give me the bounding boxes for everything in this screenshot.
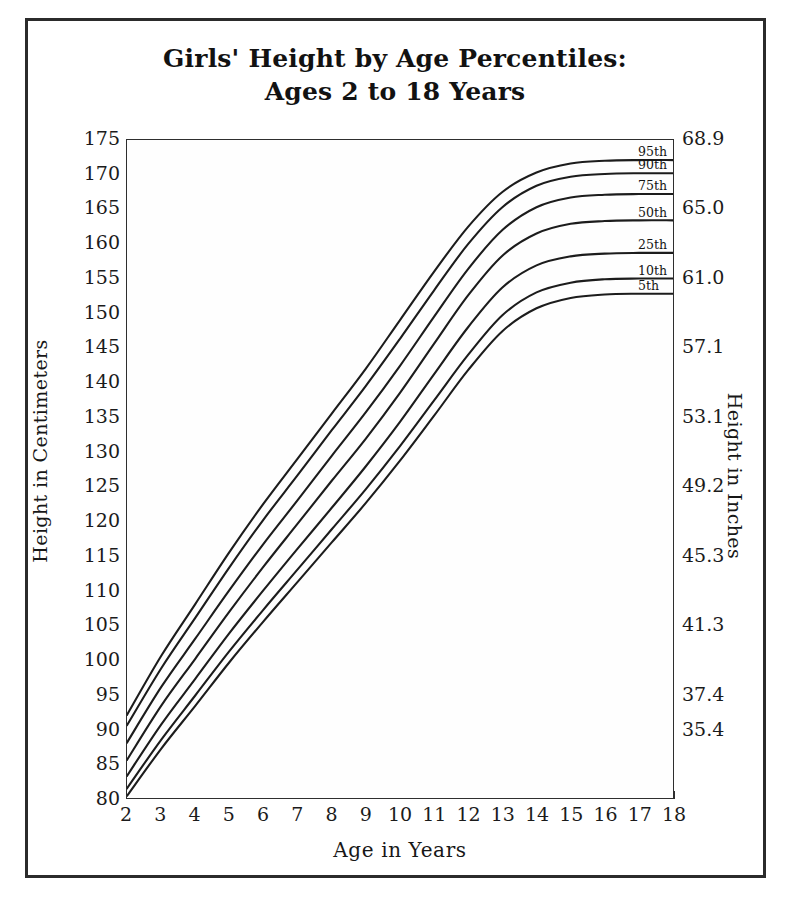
x-tick-label-age-6: 6 xyxy=(257,805,269,824)
y-tick-label-cm-135: 135 xyxy=(84,407,120,426)
y-tick-label-cm-115: 115 xyxy=(84,546,120,565)
x-tick-label-age-15: 15 xyxy=(559,805,583,824)
y-axis-title-left: Height in Centimeters xyxy=(29,321,51,581)
y-tick-label-cm-165: 165 xyxy=(84,198,120,217)
percentile-curve-5th xyxy=(127,294,673,796)
y-tick-label-cm-100: 100 xyxy=(84,650,120,669)
y-tick-label-cm-155: 155 xyxy=(84,268,120,287)
y-tick-label-cm-130: 130 xyxy=(84,442,120,461)
x-tick-label-age-3: 3 xyxy=(154,805,166,824)
y-tick-label-cm-125: 125 xyxy=(84,476,120,495)
x-tick-label-age-18: 18 xyxy=(662,805,686,824)
page-title: Girls' Height by Age Percentiles: Ages 2… xyxy=(60,42,730,108)
percentile-label-50th: 50th xyxy=(638,207,667,220)
y-tick-label-cm-175: 175 xyxy=(84,129,120,148)
x-tickmark xyxy=(674,791,675,799)
y-tick-label-in-65.0: 65.0 xyxy=(682,198,724,217)
y-tick-label-in-53.1: 53.1 xyxy=(682,407,724,426)
percentile-label-5th: 5th xyxy=(638,280,659,293)
y-tick-label-cm-110: 110 xyxy=(84,581,120,600)
x-tick-label-age-4: 4 xyxy=(188,805,200,824)
x-tick-label-age-16: 16 xyxy=(593,805,617,824)
y-axis-right-ticks: 35.437.441.345.349.253.157.161.065.068.9 xyxy=(682,0,744,903)
y-tick-label-in-61.0: 61.0 xyxy=(682,268,724,287)
y-tick-label-cm-140: 140 xyxy=(84,372,120,391)
percentile-curve-90th xyxy=(127,173,673,725)
x-axis-title: Age in Years xyxy=(126,838,674,862)
percentile-label-10th: 10th xyxy=(638,265,667,278)
x-tick-label-age-9: 9 xyxy=(360,805,372,824)
x-tick-label-age-7: 7 xyxy=(291,805,303,824)
y-axis-left-ticks: 8085909510010511011512012513013514014515… xyxy=(56,0,120,903)
percentile-label-25th: 25th xyxy=(638,239,667,252)
x-tick-label-age-13: 13 xyxy=(491,805,515,824)
x-tick-label-age-5: 5 xyxy=(223,805,235,824)
y-tick-label-cm-120: 120 xyxy=(84,511,120,530)
x-tick-label-age-2: 2 xyxy=(120,805,132,824)
y-tick-label-in-35.4: 35.4 xyxy=(682,720,724,739)
x-axis-ticks: 23456789101112131415161718 xyxy=(0,805,786,835)
x-tick-label-age-14: 14 xyxy=(525,805,549,824)
y-tick-label-in-49.2: 49.2 xyxy=(682,476,724,495)
chart-title-line2: Ages 2 to 18 Years xyxy=(60,75,730,108)
y-tick-label-cm-95: 95 xyxy=(96,685,120,704)
percentile-curve-10th xyxy=(127,278,673,788)
percentile-curve-95th xyxy=(127,160,673,715)
y-tick-label-in-68.9: 68.9 xyxy=(682,129,724,148)
y-tick-label-in-41.3: 41.3 xyxy=(682,615,724,634)
y-tick-label-cm-160: 160 xyxy=(84,233,120,252)
x-tick-label-age-12: 12 xyxy=(456,805,480,824)
chart-title-line1: Girls' Height by Age Percentiles: xyxy=(163,44,627,73)
percentile-label-90th: 90th xyxy=(638,159,667,172)
y-tick-label-in-37.4: 37.4 xyxy=(682,685,724,704)
y-tick-label-in-57.1: 57.1 xyxy=(682,337,724,356)
x-tick-label-age-17: 17 xyxy=(628,805,652,824)
percentile-curve-25th xyxy=(127,253,673,776)
y-tick-label-cm-145: 145 xyxy=(84,337,120,356)
percentile-label-75th: 75th xyxy=(638,180,667,193)
y-tick-label-in-45.3: 45.3 xyxy=(682,546,724,565)
percentile-curves xyxy=(127,140,673,798)
y-tick-label-cm-170: 170 xyxy=(84,164,120,183)
plot-area xyxy=(126,139,674,799)
y-tick-label-cm-105: 105 xyxy=(84,615,120,634)
y-tick-label-cm-90: 90 xyxy=(96,720,120,739)
y-tick-label-cm-150: 150 xyxy=(84,303,120,322)
x-tick-label-age-10: 10 xyxy=(388,805,412,824)
x-tick-label-age-11: 11 xyxy=(422,805,446,824)
x-tick-label-age-8: 8 xyxy=(325,805,337,824)
chart-page: Girls' Height by Age Percentiles: Ages 2… xyxy=(0,0,786,903)
y-tick-label-cm-85: 85 xyxy=(96,754,120,773)
